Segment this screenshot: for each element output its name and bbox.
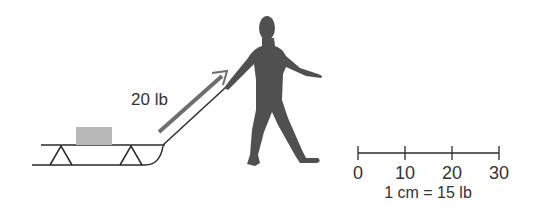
cargo-box [76,127,112,145]
scale-caption: 1 cm = 15 lb [384,184,472,201]
person-silhouette [224,16,322,166]
sled-strut-rear [50,146,72,165]
scale-tick-10: 10 [395,163,415,183]
force-arrow [159,71,227,132]
scale-bar [358,146,499,160]
scale-tick-20: 20 [442,163,462,183]
person-body [224,38,322,166]
scale-tick-0: 0 [353,163,363,183]
scale-tick-30: 30 [489,163,509,183]
sled-strut-front [120,146,142,165]
sled-handle [163,88,225,145]
person-head [259,16,275,40]
force-label: 20 lb [131,90,168,109]
sled-force-diagram: 20 lb 0 10 20 30 1 cm = 15 lb [0,0,533,206]
